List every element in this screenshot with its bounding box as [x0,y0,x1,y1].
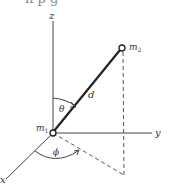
z-axis-label: z [48,10,55,21]
x-axis [6,133,53,179]
spherical-coordinates-diagram: n p g z y x d θ ϕ m1 m2 [0,0,169,184]
phi-label: ϕ [53,147,59,157]
theta-label: θ [59,104,65,114]
distance-line-d [54,50,120,131]
y-axis-label: y [154,127,161,138]
mass-m1-label: m1 [36,123,48,134]
projection-line-dashed [53,133,124,175]
mass-m2-marker [119,45,125,51]
diagram-svg: z y x d θ ϕ m1 m2 [0,0,169,184]
vertical-drop-dashed [123,52,124,175]
distance-label: d [88,89,94,100]
mass-m2-label: m2 [129,42,142,53]
mass-m1-marker [50,130,56,136]
x-axis-label: x [0,174,6,184]
